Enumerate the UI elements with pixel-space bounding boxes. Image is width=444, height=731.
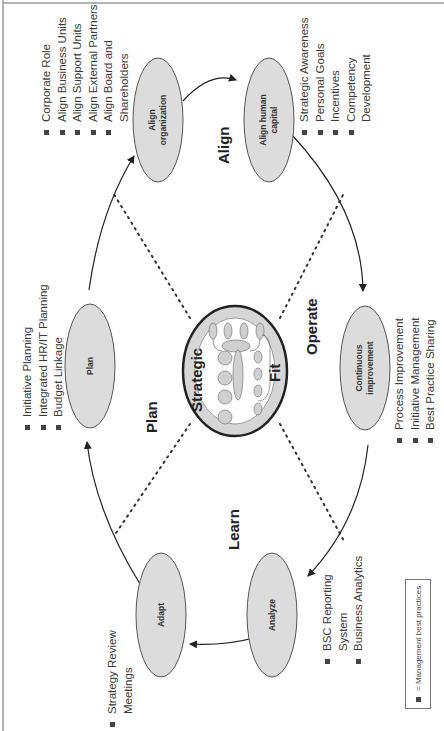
bullets-align-organization: Corporate Role Align Business Units Alig… xyxy=(39,4,132,136)
bullets-analyze: BSC Reporting System Business Analytics xyxy=(320,556,367,665)
phase-label-plan: Plan xyxy=(143,401,160,433)
bullet-item: BSC Reporting xyxy=(320,556,336,665)
mini-node xyxy=(240,323,248,339)
bullet-item: Process Improvement xyxy=(392,317,408,444)
bullet-item: Align External Partners xyxy=(86,4,102,136)
strategy-execution-cycle-diagram: Strategic Fit Plan Align Operate Learn P… xyxy=(0,0,444,731)
divider-upper-left xyxy=(112,191,190,318)
legend-bullet-icon xyxy=(416,697,421,702)
arrow-align-org-to-align-human xyxy=(183,78,236,101)
mini-node xyxy=(254,385,262,397)
mini-node xyxy=(254,351,262,363)
mini-node xyxy=(218,351,232,365)
center-label-strategic: Strategic xyxy=(188,348,205,412)
divider-lower-left xyxy=(114,424,190,536)
mini-node xyxy=(222,340,250,352)
bullet-item: Integrated HR/IT Planning xyxy=(36,284,52,431)
bullet-item-continuation: System xyxy=(336,556,352,665)
bullet-item: Incentives xyxy=(328,17,344,136)
bullets-continuous-improvement: Process Improvement Initiative Managemen… xyxy=(392,317,439,444)
bullet-item: Competency xyxy=(344,17,360,136)
phase-label-learn: Learn xyxy=(225,509,242,550)
mini-node xyxy=(254,403,262,415)
bullet-item: Initiative Planning xyxy=(20,284,36,431)
node-label-line: Continuous xyxy=(354,328,365,408)
node-label-line: organization xyxy=(158,80,169,160)
legend: = Management best practices xyxy=(405,579,431,709)
bullets-plan: Initiative Planning Integrated HR/IT Pla… xyxy=(20,284,67,431)
bullet-item: Business Analytics xyxy=(351,556,367,665)
arrow-plan-to-align-org xyxy=(89,156,134,290)
bullets-adapt: Strategy Review Meetings xyxy=(105,630,136,728)
node-label-adapt: Adapt xyxy=(156,575,167,655)
node-label-line: improvement xyxy=(365,328,376,408)
bullet-item: Budget Linkage xyxy=(51,284,67,431)
node-label-align-organization: Align organization xyxy=(147,80,169,160)
arrow-analyze-to-adapt xyxy=(190,637,257,644)
node-label-line: Plan xyxy=(85,326,96,406)
center-label-fit: Fit xyxy=(266,364,283,382)
node-label-align-human-capital: Align human capital xyxy=(258,80,280,160)
bullet-item-continuation: Meetings xyxy=(121,630,137,728)
mini-node xyxy=(224,323,232,339)
node-label-line: Align human xyxy=(258,80,269,160)
bullet-item: Align Business Units xyxy=(55,4,71,136)
bullet-item: Best Practice Sharing xyxy=(423,317,439,444)
bullets-align-human-capital: Strategic Awareness Personal Goals Incen… xyxy=(297,17,375,136)
bullet-item: Align Support Units xyxy=(70,4,86,136)
legend-text: = Management best practices xyxy=(414,586,423,691)
arrow-adapt-to-plan xyxy=(87,442,140,584)
node-label-plan: Plan xyxy=(85,326,96,406)
phase-label-operate: Operate xyxy=(303,298,320,355)
mini-node xyxy=(218,410,232,424)
mini-node xyxy=(254,368,262,380)
mini-node xyxy=(218,390,232,404)
bullet-item: Strategic Awareness xyxy=(297,17,313,136)
bullet-item: Align Board and xyxy=(101,4,117,136)
mini-node xyxy=(256,323,264,339)
bullet-item: Personal Goals xyxy=(313,17,329,136)
node-label-analyze: Analyze xyxy=(267,575,278,655)
mini-node xyxy=(209,323,217,339)
mini-node xyxy=(233,350,243,400)
mini-node xyxy=(218,371,232,385)
node-label-line: Adapt xyxy=(156,575,167,655)
divider-lower-right xyxy=(280,424,344,541)
phase-label-align: Align xyxy=(215,127,232,165)
node-label-line: Align xyxy=(147,80,158,160)
bullet-item: Corporate Role xyxy=(39,4,55,136)
bullet-item: Strategy Review xyxy=(105,630,121,728)
node-label-continuous-improvement: Continuous improvement xyxy=(354,328,376,408)
bullet-item-continuation: Shareholders xyxy=(117,4,133,136)
node-label-line: Analyze xyxy=(267,575,278,655)
node-label-line: capital xyxy=(269,80,280,160)
bullet-item-continuation: Development xyxy=(359,17,375,136)
arrow-align-human-to-continuous xyxy=(293,136,363,291)
bullet-item: Initiative Management xyxy=(408,317,424,444)
